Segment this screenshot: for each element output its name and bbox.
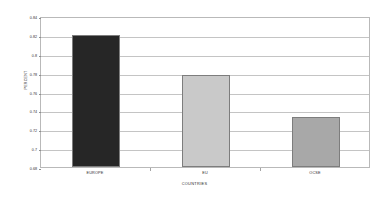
x-axis-tick-label: EUROPE — [55, 171, 135, 175]
x-axis-tick-mark — [260, 168, 261, 171]
y-axis-tick-mark — [39, 169, 42, 170]
x-axis-tick-label: EU — [165, 171, 245, 175]
y-axis-tick-label: 0.74 — [30, 110, 37, 114]
y-axis-tick-label: 0.7 — [32, 148, 37, 152]
y-axis-tick-label: 0.78 — [30, 73, 37, 77]
bar-ocse — [292, 117, 340, 167]
y-axis-tick-mark — [39, 94, 42, 95]
y-axis-tick-label: 0.8 — [32, 54, 37, 58]
y-axis-title: PERCENT — [24, 50, 28, 110]
y-axis-tick-mark — [39, 131, 42, 132]
y-axis-tick-label: 0.84 — [30, 16, 37, 20]
y-axis-tick-mark — [39, 112, 42, 113]
y-axis-tick-label: 0.72 — [30, 129, 37, 133]
y-axis-tick-label: 0.82 — [30, 35, 37, 39]
y-axis-tick-mark — [39, 18, 42, 19]
bar-eu — [182, 75, 230, 167]
bar-europe — [72, 35, 120, 167]
x-axis-tick-mark — [150, 168, 151, 171]
y-axis-tick-label: 0.76 — [30, 92, 37, 96]
y-axis-tick-mark — [39, 56, 42, 57]
bar-chart: PERCENT 0.840.820.80.780.760.740.720.70.… — [0, 0, 389, 197]
plot-area: 0.840.820.80.780.760.740.720.70.68 — [40, 17, 370, 168]
x-axis-tick-label: OCSE — [275, 171, 355, 175]
y-axis-tick-mark — [39, 150, 42, 151]
y-axis-tick-label: 0.68 — [30, 167, 37, 171]
y-axis-tick-mark — [39, 75, 42, 76]
y-axis-tick-mark — [39, 37, 42, 38]
x-axis-title: COUNTRIES — [0, 181, 389, 186]
